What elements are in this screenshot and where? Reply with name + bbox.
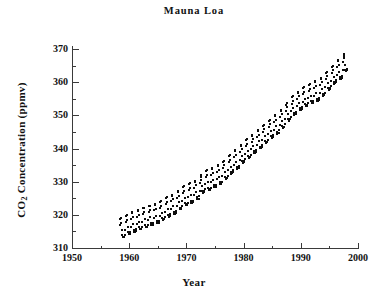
data-point <box>217 164 219 166</box>
data-point <box>204 188 206 190</box>
data-point <box>233 164 235 166</box>
data-point <box>249 156 251 158</box>
data-point <box>142 213 144 215</box>
data-point <box>212 179 214 181</box>
data-point <box>216 178 218 180</box>
data-point <box>189 182 191 184</box>
data-point <box>155 215 157 217</box>
data-point <box>125 221 127 223</box>
data-point <box>279 116 281 118</box>
data-point <box>190 194 192 196</box>
data-point <box>120 222 122 224</box>
data-point <box>291 103 293 105</box>
data-point <box>298 102 300 104</box>
data-point <box>226 177 228 179</box>
data-point <box>273 121 275 123</box>
data-point <box>270 130 272 132</box>
data-point <box>263 124 265 126</box>
data-point <box>127 226 129 228</box>
data-point <box>193 187 195 189</box>
data-point <box>342 61 344 63</box>
data-point <box>239 159 241 161</box>
data-point <box>338 71 340 73</box>
data-point <box>148 211 150 213</box>
data-point <box>135 228 137 230</box>
data-point <box>309 83 311 85</box>
data-point <box>335 81 337 83</box>
data-point <box>138 214 140 216</box>
data-point <box>126 219 128 221</box>
x-tick-label: 1950 <box>52 252 92 263</box>
data-point <box>257 129 259 131</box>
data-point <box>341 77 343 79</box>
data-point <box>228 161 230 163</box>
data-point <box>285 110 287 112</box>
data-point <box>330 85 332 87</box>
figure-canvas: Mauna Loa 310320330340350360370195019601… <box>0 0 388 307</box>
data-point <box>261 139 263 141</box>
data-point <box>338 64 340 66</box>
data-point <box>144 218 146 220</box>
data-point <box>120 217 122 219</box>
data-point <box>206 174 208 176</box>
data-point <box>229 159 231 161</box>
data-point <box>209 188 211 190</box>
data-point <box>129 233 131 235</box>
data-point <box>223 164 225 166</box>
data-point <box>286 102 288 104</box>
data-point <box>215 184 217 186</box>
data-point <box>143 211 145 213</box>
data-point <box>199 190 201 192</box>
data-point <box>241 148 243 150</box>
data-point <box>221 175 223 177</box>
data-point <box>158 222 160 224</box>
data-point <box>256 144 258 146</box>
data-point <box>232 171 234 173</box>
data-point <box>205 176 207 178</box>
data-point <box>329 87 331 89</box>
data-point <box>251 134 253 136</box>
data-point <box>216 171 218 173</box>
data-point <box>164 211 166 213</box>
data-point <box>235 161 237 163</box>
data-point <box>310 95 312 97</box>
data-point <box>198 198 200 200</box>
data-point <box>312 102 314 104</box>
data-point <box>326 75 328 77</box>
data-point <box>318 99 320 101</box>
data-point <box>279 124 281 126</box>
data-point <box>147 219 149 221</box>
data-point <box>172 205 174 207</box>
data-point <box>211 167 213 169</box>
data-point <box>239 151 241 153</box>
data-point <box>181 205 183 207</box>
data-point <box>167 208 169 210</box>
data-point <box>170 208 172 210</box>
data-point <box>140 228 142 230</box>
data-point <box>314 80 316 82</box>
data-point <box>290 116 292 118</box>
data-point <box>252 138 254 140</box>
data-point <box>332 69 334 71</box>
data-point <box>194 180 196 182</box>
data-point <box>183 190 185 192</box>
data-point <box>261 146 263 148</box>
data-point <box>143 207 145 209</box>
data-point <box>281 113 283 115</box>
data-point <box>337 59 339 61</box>
data-point <box>342 69 344 71</box>
data-point <box>264 135 266 137</box>
data-point <box>160 205 162 207</box>
data-point <box>319 84 321 86</box>
data-point <box>178 195 180 197</box>
data-point <box>283 126 285 128</box>
data-point <box>292 95 294 97</box>
data-point <box>301 108 303 110</box>
data-point <box>199 182 201 184</box>
data-point <box>193 194 195 196</box>
data-point <box>344 64 346 66</box>
data-point <box>195 191 197 193</box>
data-point <box>275 119 277 121</box>
data-point <box>326 71 328 73</box>
data-point <box>267 133 269 135</box>
